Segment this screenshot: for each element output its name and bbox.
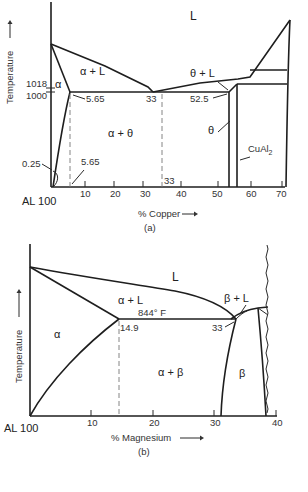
region-theta: θ (208, 124, 214, 136)
temp-1018: 1018 (26, 78, 47, 89)
y-axis-title-a: Temperature (4, 51, 15, 104)
tick-30-a: 30 (140, 188, 151, 199)
tick-20-b: 20 (149, 417, 160, 428)
region-theta-liquid: θ + L (190, 67, 215, 79)
label-33-b: 33 (212, 322, 223, 333)
tick-30-b: 30 (210, 417, 221, 428)
tick-70-a: 70 (276, 188, 287, 199)
label-cual2: CuAl2 (248, 143, 273, 156)
x-ticks-a (85, 181, 282, 187)
phase-diagrams: L α + L α α + θ θ + L θ CuAl2 1018 1000 … (0, 0, 308, 492)
liquidus-left-b (30, 267, 236, 319)
region-alpha-liquid-a: α + L (80, 65, 105, 77)
tick-60-a: 60 (246, 188, 257, 199)
theta-top-left (229, 84, 237, 92)
region-alpha-theta: α + θ (108, 127, 133, 139)
caption-b: (b) (138, 446, 150, 457)
liquidus-right-a (153, 20, 290, 92)
tick-10-a: 10 (80, 188, 91, 199)
label-525: 52.5 (190, 93, 209, 104)
caption-a: (a) (144, 222, 156, 233)
tick-20-a: 20 (110, 188, 121, 199)
liquidus-right-b (231, 307, 268, 319)
label-33-top: 33 (146, 93, 157, 104)
beta-right (258, 308, 266, 416)
label-33-bottom: 33 (164, 175, 175, 186)
x-axis-title-a: % Copper (138, 208, 180, 219)
label-149: 14.9 (120, 322, 139, 333)
beta-left (221, 319, 236, 416)
tick-40-a: 40 (176, 188, 187, 199)
label-025: 0.25 (22, 158, 41, 169)
solvus-b (30, 319, 119, 416)
tick-10-b: 10 (87, 417, 98, 428)
x-axis-title-b: % Magnesium (111, 432, 171, 443)
region-alpha-b: α (54, 328, 61, 340)
label-844f: 844° F (138, 307, 166, 318)
region-liquid-b: L (172, 270, 179, 284)
tick-50-a: 50 (212, 188, 223, 199)
region-liquid-a: L (190, 9, 197, 23)
region-alpha-a: α (55, 78, 62, 90)
y-axis-title-b: Temperature (13, 330, 24, 383)
label-565-bottom: 5.65 (81, 156, 100, 167)
region-beta-liquid: β + L (224, 292, 249, 304)
temp-1000: 1000 (26, 90, 47, 101)
region-beta: β (239, 367, 245, 379)
origin-label-b: AL 100 (4, 422, 38, 434)
region-alpha-liquid-b: α + L (118, 294, 143, 306)
right-boundary-a (286, 20, 290, 187)
region-alpha-beta: α + β (158, 366, 183, 378)
tick-40-b: 40 (272, 417, 283, 428)
label-565-top: 5.65 (86, 93, 105, 104)
diagram-al-cu: L α + L α α + θ θ + L θ CuAl2 1018 1000 … (4, 2, 290, 233)
break-line-b (266, 245, 268, 413)
diagram-al-mg: L α + L α α + β β + L β 844° F 14.9 33 1… (4, 244, 283, 457)
origin-label-a: AL 100 (22, 195, 56, 207)
